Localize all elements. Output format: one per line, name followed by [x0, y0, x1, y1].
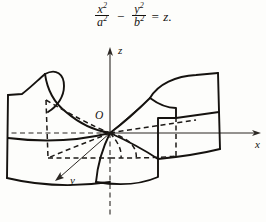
x-axis-label: x: [254, 138, 260, 150]
right-wing-inner-fold: [150, 98, 176, 118]
left-wing-inner-fold: [45, 74, 110, 133]
origin-label: O: [95, 109, 104, 121]
front-skirt-outline: [96, 159, 158, 184]
right-wing-front-edge: [110, 133, 158, 159]
hidden-construction-lines: [46, 100, 196, 160]
fraction-denominator-a: a2: [95, 16, 109, 29]
equation-formula: x2 a2 − y2 b2 = z.: [94, 4, 172, 30]
fraction-x-over-a: x2 a2: [95, 3, 109, 29]
right-wing-bottom-edge: [158, 149, 220, 159]
left-wing-top-edge: [45, 72, 64, 112]
y-axis-arrow-icon: [55, 172, 64, 181]
left-wing-mid-ruling: [8, 133, 110, 141]
right-wing-right-edge: [218, 73, 220, 149]
front-skirt-bottom-edge: [96, 159, 158, 184]
exponent-two: 2: [140, 14, 144, 23]
exponent-two: 2: [103, 1, 107, 10]
left-wing-left-edge: [7, 95, 8, 178]
y-axis-label: y: [69, 174, 75, 186]
equation-block: x2 a2 − y2 b2 = z.: [0, 4, 266, 30]
exponent-two: 2: [103, 14, 107, 23]
left-wing-outline: [7, 72, 110, 185]
right-wing-top-edge: [150, 73, 218, 98]
right-wing-outline: [110, 73, 220, 159]
equation-right-hand-side: = z.: [151, 9, 172, 25]
right-wing-fold-connector: [158, 118, 176, 159]
minus-operator: −: [117, 9, 125, 25]
exponent-two: 2: [140, 1, 144, 10]
hidden-left-vertical: [46, 100, 48, 158]
figure-page: x2 a2 − y2 b2 = z.: [0, 0, 266, 222]
saddle-surface-figure: z x y O: [0, 32, 266, 222]
left-wing-back-edge: [8, 74, 45, 95]
right-wing-mid-ruling: [176, 112, 219, 118]
fraction-denominator-b: b2: [132, 16, 146, 29]
z-axis-label: z: [117, 44, 123, 56]
fraction-y-over-b: y2 b2: [132, 3, 146, 29]
hidden-hyperbola-arc: [110, 133, 136, 160]
